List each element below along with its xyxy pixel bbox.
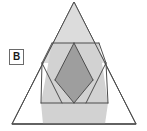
figure-panel: B: [0, 0, 147, 131]
lower-shaded-band: [41, 103, 108, 124]
panel-label-b: B: [13, 52, 20, 62]
geometric-triangle-diagram: [0, 0, 147, 131]
panel-label-box: B: [9, 49, 24, 65]
